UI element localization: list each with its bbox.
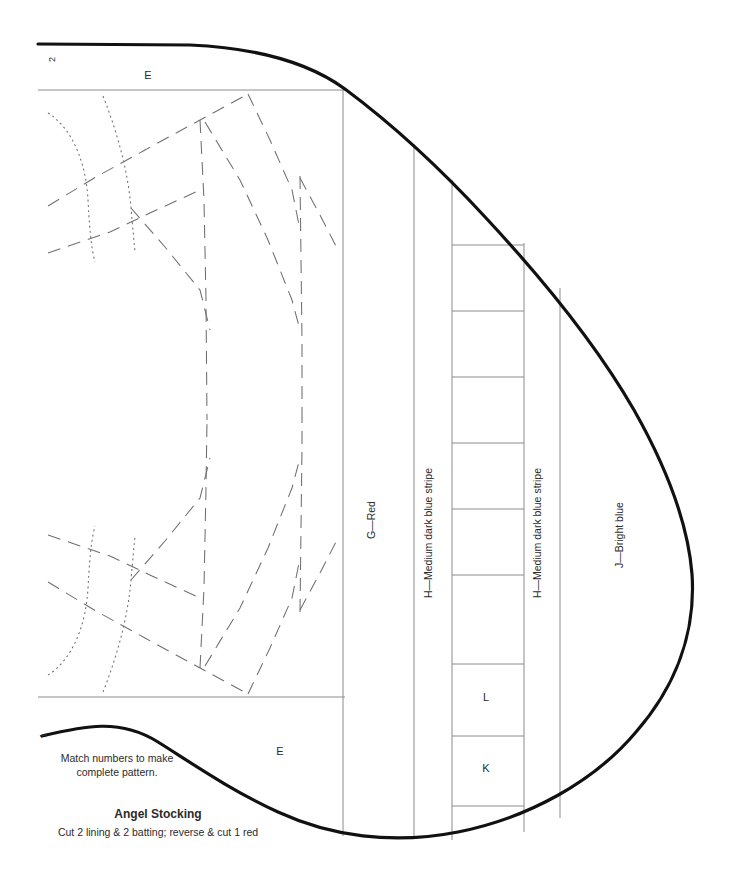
label-e-top: E: [144, 69, 151, 81]
dashed-diagonal-lower-e: [248, 558, 300, 694]
dashed-diagonal-lower-b: [48, 535, 200, 598]
ladder-rungs: [452, 245, 524, 806]
dashed-diagonal-upper-a: [48, 94, 248, 206]
dashed-vertical-lower-left: [200, 420, 207, 668]
match-markers: 2 1: [38, 57, 57, 738]
strip-label-h-right: H—Medium dark blue stripe: [531, 468, 543, 598]
dashed-vertical-lower-right: [300, 420, 302, 612]
match-marker-1: 1: [38, 733, 48, 738]
dashed-vertical-upper-right: [300, 176, 302, 420]
dashed-diagonal-upper-f: [300, 178, 338, 250]
dashed-diagonal-upper-c: [131, 208, 210, 330]
dotted-curve-lower-inner: [103, 536, 135, 692]
construction-lines-lower: [48, 420, 338, 694]
dashed-diagonal-upper-d: [205, 122, 300, 330]
dashed-diagonal-upper-e: [248, 94, 300, 230]
strip-label-g-red: G—Red: [365, 501, 377, 539]
strip-label-h-left: H—Medium dark blue stripe: [422, 468, 434, 598]
outline-path: [38, 44, 693, 838]
dashed-diagonal-upper-b: [48, 190, 200, 253]
label-e-bottom: E: [276, 745, 283, 757]
cell-labels: L K: [482, 691, 490, 774]
pattern-title: Angel Stocking: [114, 807, 201, 821]
cell-label-k: K: [482, 762, 490, 774]
stocking-outline: [38, 44, 693, 838]
dashed-vertical-upper-left: [200, 120, 207, 420]
dashed-diagonal-lower-a: [48, 582, 248, 694]
dotted-curve-upper-inner: [103, 96, 135, 252]
match-note-line-1: Match numbers to make: [61, 752, 174, 764]
match-note-line-2: complete pattern.: [76, 766, 157, 778]
pattern-drawing: 2 1 E E L K G—Red H—Medium dark blue str…: [0, 0, 745, 884]
dashed-diagonal-lower-c: [131, 458, 210, 580]
pattern-subtitle: Cut 2 lining & 2 batting; reverse & cut …: [58, 826, 258, 838]
dashed-diagonal-lower-d: [205, 458, 300, 666]
fabric-strip-labels: G—Red H—Medium dark blue stripe H—Medium…: [365, 468, 625, 598]
construction-lines-upper: [48, 94, 338, 420]
caption-block: Match numbers to make complete pattern. …: [58, 752, 258, 838]
cell-label-l: L: [483, 691, 489, 703]
dashed-diagonal-lower-f: [300, 538, 338, 610]
guide-rules: [38, 88, 345, 836]
section-labels: E E: [144, 69, 283, 757]
pattern-sheet: 2 1 E E L K G—Red H—Medium dark blue str…: [0, 0, 745, 884]
strip-label-j-bright-blue: J—Bright blue: [613, 502, 625, 568]
match-marker-2: 2: [47, 57, 57, 62]
